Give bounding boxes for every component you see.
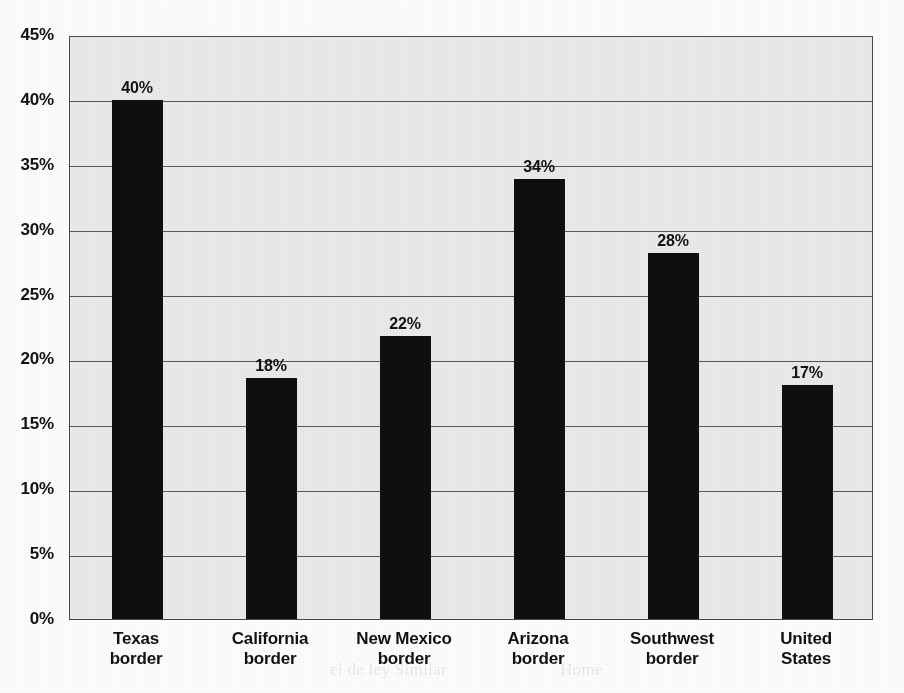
bar-value-label: 40%	[97, 79, 177, 97]
y-axis-tick-label: 15%	[0, 414, 62, 434]
y-axis-tick-label: 25%	[0, 285, 62, 305]
x-axis-tick-label-line2: States	[726, 649, 886, 669]
gridline	[70, 296, 872, 297]
gridline	[70, 426, 872, 427]
bar-value-label: 18%	[231, 357, 311, 375]
y-axis-tick-label: 45%	[0, 25, 62, 45]
y-axis-tick-label: 0%	[0, 609, 62, 629]
bar	[112, 100, 163, 619]
y-axis-tick-label: 10%	[0, 479, 62, 499]
bar-chart: 0%5%10%15%20%25%30%35%40%45% 40%18%22%34…	[0, 0, 904, 693]
x-axis-tick-label-line1: New Mexico	[356, 629, 451, 648]
bar-value-label: 28%	[633, 232, 713, 250]
scanned-chart-page: Tij years Sierra Texas border 1.4 Salton…	[0, 0, 904, 693]
bar	[246, 378, 297, 619]
bar-value-label: 17%	[767, 364, 847, 382]
bar	[514, 179, 565, 619]
gridline	[70, 491, 872, 492]
plot-area: 40%18%22%34%28%17%	[69, 36, 873, 620]
gridline	[70, 101, 872, 102]
x-axis-tick-label-line1: Texas	[113, 629, 159, 648]
y-axis-tick-label: 30%	[0, 220, 62, 240]
bar	[380, 336, 431, 619]
y-axis: 0%5%10%15%20%25%30%35%40%45%	[0, 0, 62, 693]
gridline	[70, 361, 872, 362]
bar	[782, 385, 833, 619]
y-axis-tick-label: 35%	[0, 155, 62, 175]
y-axis-tick-label: 5%	[0, 544, 62, 564]
gridline	[70, 231, 872, 232]
x-axis-tick-label-line1: United	[780, 629, 832, 648]
x-axis-tick-label-line1: Arizona	[508, 629, 569, 648]
bar	[648, 253, 699, 619]
y-axis-tick-label: 20%	[0, 349, 62, 369]
x-axis-tick-label: UnitedStates	[726, 629, 886, 669]
x-axis-tick-label-line1: California	[232, 629, 308, 648]
gridline	[70, 556, 872, 557]
gridline	[70, 166, 872, 167]
bar-value-label: 34%	[499, 158, 579, 176]
y-axis-tick-label: 40%	[0, 90, 62, 110]
bar-value-label: 22%	[365, 315, 445, 333]
x-axis-tick-label-line1: Southwest	[630, 629, 714, 648]
